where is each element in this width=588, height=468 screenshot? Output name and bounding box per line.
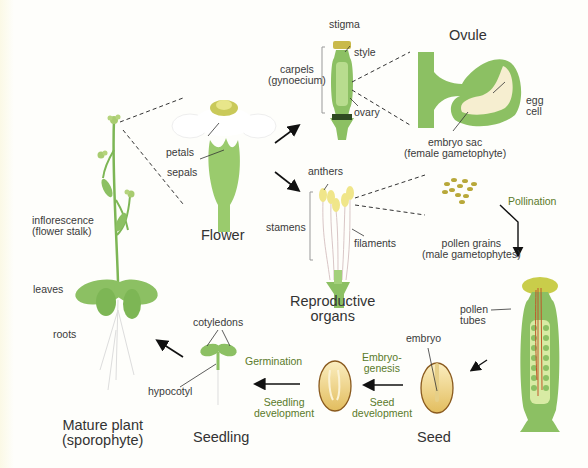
stamens-illustration [319, 186, 354, 308]
label-roots: roots [53, 329, 76, 340]
process-pollination: Pollination [508, 196, 556, 207]
ovule-illustration [418, 52, 521, 128]
plant-life-cycle-diagram: Mature plant (sporophyte) Flower Reprodu… [0, 0, 588, 468]
mature-seed-illustration [319, 361, 351, 411]
label-hypocotyl: hypocotyl [148, 386, 192, 397]
pollinated-carpel-illustration [520, 277, 560, 432]
label-petals: petals [166, 147, 194, 158]
seed-with-embryo-illustration [421, 363, 453, 413]
stage-seed: Seed [417, 430, 451, 445]
process-germination: Germination [245, 356, 302, 367]
process-seed-development: Seed development [352, 397, 412, 419]
stage-reproductive-organs: Reproductive organs [290, 294, 375, 324]
stage-seedling: Seedling [193, 430, 249, 445]
label-inflorescence: inflorescence (flower stalk) [32, 215, 94, 237]
label-pollen-grains: pollen grains (male gametophytes) [422, 238, 521, 260]
pollen-grains-illustration [442, 178, 477, 204]
carpel-illustration [330, 41, 354, 140]
label-embryo: embryo [406, 333, 441, 344]
label-pollen-tubes: pollen tubes [460, 304, 488, 326]
stage-ovule: Ovule [449, 28, 487, 43]
process-seedling-development: Seedling development [254, 397, 314, 419]
label-egg-cell: egg cell [526, 95, 544, 117]
stage-flower: Flower [201, 228, 245, 243]
label-ovary: ovary [354, 107, 380, 118]
label-stigma: stigma [329, 19, 360, 30]
label-filaments: filaments [354, 238, 396, 249]
stage-mature-plant: Mature plant (sporophyte) [62, 418, 143, 448]
mature-plant-illustration [73, 115, 159, 391]
label-carpels: carpels (gynoecium) [268, 64, 326, 86]
process-embryogenesis: Embryo- genesis [362, 352, 402, 374]
label-sepals: sepals [167, 167, 197, 178]
label-cotyledons: cotyledons [193, 317, 243, 328]
seedling-illustration [199, 342, 238, 405]
label-stamens: stamens [266, 222, 306, 233]
label-embryo-sac: embryo sac (female gametophyte) [404, 137, 506, 159]
label-anthers: anthers [308, 166, 343, 177]
label-leaves: leaves [33, 284, 63, 295]
label-style: style [354, 47, 376, 58]
